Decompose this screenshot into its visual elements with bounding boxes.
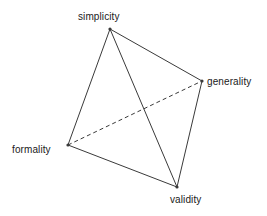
- vertex-label-formality: formality: [12, 144, 51, 156]
- vertex-label-generality: generality: [207, 76, 251, 88]
- edge-group: [68, 29, 202, 187]
- tetrahedron-diagram: simplicity generality formality validity: [0, 0, 267, 216]
- vertex-dot-simplicity: [108, 27, 111, 30]
- edge-simplicity-generality: [110, 29, 202, 81]
- vertex-dot-validity: [175, 185, 178, 188]
- vertex-dot-formality: [66, 143, 69, 146]
- edge-generality-validity: [177, 81, 202, 187]
- edge-formality-validity: [68, 145, 177, 187]
- edge-simplicity-validity: [110, 29, 177, 187]
- vertex-dot-group: [66, 27, 203, 188]
- vertex-dot-generality: [200, 79, 203, 82]
- edge-simplicity-formality: [68, 29, 110, 145]
- vertex-label-validity: validity: [170, 194, 201, 206]
- tetrahedron-svg: [0, 0, 267, 216]
- vertex-label-simplicity: simplicity: [78, 11, 120, 23]
